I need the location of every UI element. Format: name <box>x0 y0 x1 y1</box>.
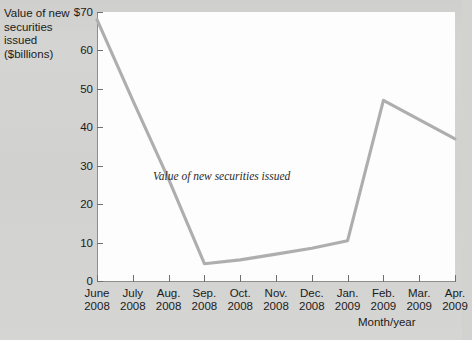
y-axis-tick <box>97 166 103 167</box>
x-axis-tick <box>133 275 134 282</box>
y-axis-tick <box>97 50 103 51</box>
x-axis-title: Month/year <box>358 316 416 328</box>
y-axis-tick <box>97 127 103 128</box>
plot-area <box>97 12 455 282</box>
x-axis-tick <box>383 275 384 282</box>
plot-inner <box>97 12 455 282</box>
y-axis-tick-label: 50 <box>59 83 93 95</box>
x-axis-tick <box>204 275 205 282</box>
y-axis-tick <box>97 89 103 90</box>
x-axis-tick <box>276 275 277 282</box>
x-axis-tick <box>455 275 456 282</box>
x-axis-tick-label: Apr.2009 <box>431 287 472 313</box>
y-axis-tick <box>97 12 103 13</box>
x-axis-tick <box>348 275 349 282</box>
y-axis-tick <box>97 243 103 244</box>
y-axis-tick-label: 30 <box>59 160 93 172</box>
y-axis-tick-label: 60 <box>59 44 93 56</box>
series-annotation-label: Value of new securities issued <box>153 170 290 182</box>
x-axis-tick <box>312 275 313 282</box>
y-axis-line <box>97 12 98 282</box>
y-axis-tick-label: 20 <box>59 198 93 210</box>
y-axis-tick-label: 40 <box>59 121 93 133</box>
x-axis-tick <box>97 275 98 282</box>
y-axis-tick-label: 10 <box>59 237 93 249</box>
x-axis-tick <box>240 275 241 282</box>
x-axis-tick-label-line: 2009 <box>431 300 472 313</box>
y-axis-tick-label: 0 <box>59 275 93 287</box>
y-axis-title-line: securities <box>4 21 84 35</box>
x-axis-tick <box>419 275 420 282</box>
y-axis-tick <box>97 204 103 205</box>
y-axis-tick-label: $70 <box>59 6 93 18</box>
x-axis-tick <box>169 275 170 282</box>
x-axis-tick-label-line: Apr. <box>431 287 472 300</box>
